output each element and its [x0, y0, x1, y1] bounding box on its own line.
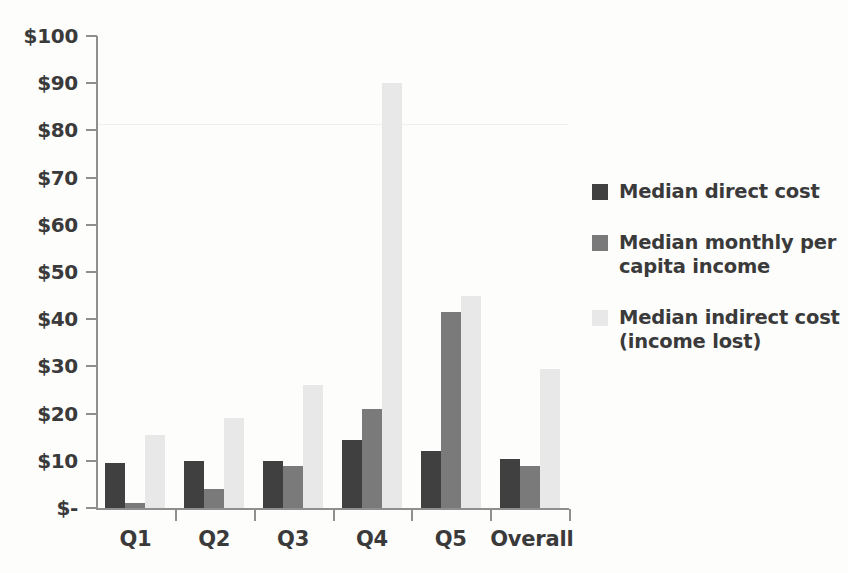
bar: [303, 385, 323, 508]
x-axis-tick-mark: [569, 509, 571, 521]
x-axis-tick-mark: [333, 509, 335, 521]
legend-entry: Median monthly per capita income: [592, 231, 842, 280]
y-axis-tick-mark: [86, 318, 97, 320]
y-axis-tick-mark: [86, 271, 97, 273]
x-axis-tick-mark: [411, 509, 413, 521]
y-axis-tick-mark: [86, 35, 97, 37]
bar: [184, 461, 204, 508]
bar: [283, 466, 303, 508]
y-axis-tick-labels: $-$10$20$30$40$50$60$70$80$90$100: [0, 0, 78, 573]
x-axis-tick-mark: [175, 509, 177, 521]
x-axis-tick-mark: [490, 509, 492, 521]
y-axis-tick-mark: [86, 224, 97, 226]
bar: [500, 459, 520, 508]
bar: [520, 466, 540, 508]
legend-entry: Median direct cost: [592, 180, 842, 205]
y-axis-tick-mark: [86, 177, 97, 179]
x-axis-tick-mark: [254, 509, 256, 521]
y-axis-tick-label: $10: [0, 449, 78, 473]
y-axis-tick-label: $-: [0, 496, 78, 520]
y-axis-tick-label: $20: [0, 402, 78, 426]
bar: [224, 418, 244, 508]
y-axis-tick-mark: [86, 365, 97, 367]
bar: [263, 461, 283, 508]
legend-swatch-icon: [592, 235, 608, 251]
bar-chart: $-$10$20$30$40$50$60$70$80$90$100 Median…: [0, 0, 848, 573]
legend-label: Median monthly per capita income: [619, 231, 836, 280]
y-axis-tick-label: $70: [0, 166, 78, 190]
y-axis-tick-label: $60: [0, 213, 78, 237]
y-axis-tick-mark: [86, 507, 97, 509]
y-axis-tick-label: $80: [0, 118, 78, 142]
bar: [421, 451, 441, 508]
y-axis-tick-label: $30: [0, 354, 78, 378]
bar: [145, 435, 165, 508]
x-axis-category-label: Q5: [411, 527, 490, 551]
y-axis-tick-mark: [86, 413, 97, 415]
legend-swatch-icon: [592, 310, 608, 326]
x-axis-category-label: Q2: [175, 527, 254, 551]
y-axis-tick-mark: [86, 82, 97, 84]
bar: [362, 409, 382, 508]
bar: [461, 296, 481, 508]
x-axis-category-label: Q3: [254, 527, 333, 551]
legend-label: Median indirect cost (income lost): [619, 306, 840, 355]
legend-swatch-icon: [592, 184, 608, 200]
y-axis-tick-label: $100: [0, 24, 78, 48]
x-axis-category-label: Q4: [333, 527, 412, 551]
y-axis-tick-label: $50: [0, 260, 78, 284]
y-axis-tick-mark: [86, 129, 97, 131]
legend-entry: Median indirect cost (income lost): [592, 306, 842, 355]
bar: [204, 489, 224, 508]
bar: [342, 440, 362, 508]
bar: [105, 463, 125, 508]
legend-label: Median direct cost: [619, 180, 820, 205]
x-axis-category-label: Overall: [490, 527, 569, 551]
y-axis-tick-mark: [86, 460, 97, 462]
plot-area: [96, 0, 569, 510]
bar: [441, 312, 461, 508]
chart-legend: Median direct costMedian monthly per cap…: [592, 180, 842, 381]
x-axis-category-label: Q1: [96, 527, 175, 551]
y-axis-tick-label: $90: [0, 71, 78, 95]
bar: [540, 369, 560, 508]
bar: [382, 83, 402, 508]
y-axis-tick-label: $40: [0, 307, 78, 331]
